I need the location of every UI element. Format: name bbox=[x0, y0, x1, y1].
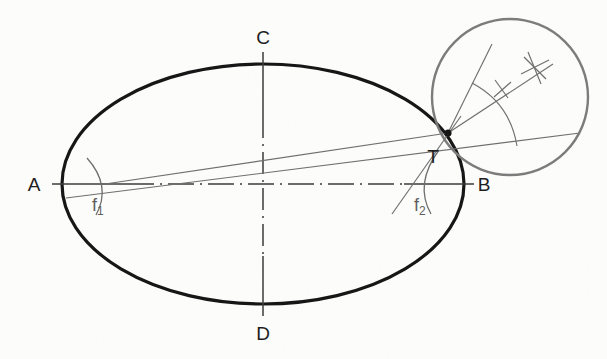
focal-ray-f1-to-t bbox=[105, 133, 448, 184]
ellipse-tangent-figure: A B C D T f1 f2 bbox=[0, 0, 607, 359]
normal-ray-from-t bbox=[448, 44, 492, 133]
label-vertex-b: B bbox=[478, 174, 491, 195]
tangent-line bbox=[66, 133, 580, 198]
bisector-construction bbox=[448, 44, 553, 146]
cross-mark-1 bbox=[494, 80, 511, 98]
figure-canvas: A B C D T f1 f2 bbox=[0, 0, 607, 359]
detail-circle bbox=[432, 19, 588, 175]
cross-mark-2 bbox=[521, 52, 549, 84]
tangent-point-marker bbox=[444, 129, 451, 136]
label-focus-2: f2 bbox=[414, 195, 426, 218]
label-vertex-a: A bbox=[28, 174, 41, 195]
label-tangent-point: T bbox=[427, 146, 439, 167]
label-vertex-c: C bbox=[256, 27, 270, 48]
label-vertex-d: D bbox=[256, 323, 270, 344]
